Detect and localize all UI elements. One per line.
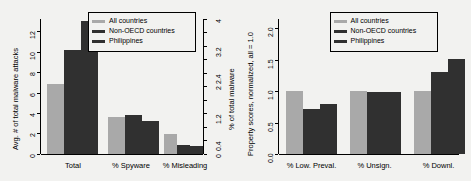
y2tick-2.0 <box>204 86 207 87</box>
xlabel-right-lowpreval: % Low. Preval. <box>274 162 350 170</box>
y2tick-label-2.4: 2.4 <box>215 74 222 84</box>
ytick-label-right-1.0: 1.0 <box>267 90 274 100</box>
bar-right-unsign-nonoecd <box>367 92 384 154</box>
y2tick-1.6 <box>204 100 207 101</box>
legend-swatch-all-countries <box>334 20 347 23</box>
legend-item-all-countries: All countries <box>334 16 433 26</box>
y2tick-4.0 <box>204 19 207 20</box>
y2tick-label-1.2: 1.2 <box>215 114 222 124</box>
y2tick-label-3.2: 3.2 <box>215 47 222 57</box>
ytick-label-12: 12 <box>29 31 36 39</box>
y2tick-label-2: 2 <box>215 86 222 90</box>
legend-right-chart: All countries Non-OECD countries Philipp… <box>330 12 438 52</box>
left-chart-xaxis-line <box>41 154 203 155</box>
legend-label-philippines: Philippines <box>351 37 385 45</box>
ytick-right-0.0 <box>275 154 278 155</box>
y2tick-3.2 <box>204 46 207 47</box>
y2tick-0.8 <box>204 127 207 128</box>
bar-right-lowpreval-philippines <box>320 104 337 154</box>
ytick-2 <box>37 133 40 134</box>
legend-left-chart: All countries Non-OECD countries Philipp… <box>88 12 196 52</box>
ytick-label-10: 10 <box>29 52 36 60</box>
bar-right-unsign-all <box>350 91 367 154</box>
ytick-12 <box>37 31 40 32</box>
xlabel-left-misleading: % Misleading <box>154 162 216 170</box>
y2tick-2.4 <box>204 73 207 74</box>
bar-left-total-all <box>47 84 64 154</box>
legend-item-non-oecd: Non-OECD countries <box>92 26 191 36</box>
legend-swatch-non-oecd <box>334 30 347 33</box>
ytick-10 <box>37 52 40 53</box>
right-chart-ylabel: Property scores, normalized, all = 1.0 <box>247 32 255 156</box>
legend-label-all-countries: All countries <box>351 17 389 25</box>
y2tick-0.0 <box>204 154 207 155</box>
xlabel-right-unsign: % Unsign. <box>346 162 404 170</box>
y2tick-label-4: 4 <box>215 19 222 23</box>
bar-left-spyware-philippines <box>142 121 159 154</box>
left-chart-ylabel: Avg. # of total malware attacks <box>12 48 20 150</box>
left-chart-yaxis-line <box>40 19 41 154</box>
bar-right-unsign-philippines <box>384 92 401 154</box>
ytick-label-4: 4 <box>29 113 36 117</box>
legend-item-philippines: Philippines <box>334 36 433 46</box>
y2tick-1.2 <box>204 113 207 114</box>
ytick-label-6: 6 <box>29 93 36 97</box>
ytick-4 <box>37 113 40 114</box>
y2tick-label-0: 0 <box>215 154 222 158</box>
ytick-right-1.5 <box>275 60 278 61</box>
legend-label-non-oecd: Non-OECD countries <box>351 27 417 35</box>
y2tick-0.4 <box>204 140 207 141</box>
bar-right-downl-all <box>414 91 431 154</box>
y2tick-label-0.4: 0.4 <box>215 141 222 151</box>
bar-left-spyware-nonoecd <box>125 115 142 155</box>
legend-item-philippines: Philippines <box>92 36 191 46</box>
y2tick-3.6 <box>204 32 207 33</box>
ytick-label-right-2.0: 2.0 <box>267 27 274 37</box>
legend-label-all-countries: All countries <box>109 17 147 25</box>
bar-right-lowpreval-all <box>286 91 303 154</box>
legend-label-philippines: Philippines <box>109 37 143 45</box>
legend-item-all-countries: All countries <box>92 16 191 26</box>
bar-left-misleading-all <box>164 134 177 154</box>
right-chart-yaxis-line <box>278 19 279 154</box>
ytick-right-1.0 <box>275 91 278 92</box>
xlabel-right-downl: % Downl. <box>412 162 466 170</box>
bar-right-lowpreval-nonoecd <box>303 109 320 154</box>
y2tick-2.8 <box>204 59 207 60</box>
xlabel-left-spyware: % Spyware <box>103 162 159 170</box>
bar-left-spyware-all <box>108 117 125 154</box>
ytick-label-right-1.5: 1.5 <box>267 59 274 69</box>
bar-right-downl-nonoecd <box>431 72 448 154</box>
bar-left-total-nonoecd <box>64 50 81 154</box>
ytick-right-2.0 <box>275 28 278 29</box>
legend-swatch-philippines <box>92 40 105 43</box>
ytick-right-0.5 <box>275 123 278 124</box>
ytick-0 <box>37 154 40 155</box>
ytick-8 <box>37 72 40 73</box>
ytick-label-right-0.0: 0.0 <box>267 153 274 163</box>
bar-left-misleading-philippines <box>190 146 203 154</box>
figure-container: Avg. # of total malware attacks % of tot… <box>0 0 471 181</box>
bar-left-misleading-nonoecd <box>177 145 190 155</box>
legend-swatch-non-oecd <box>92 30 105 33</box>
legend-swatch-all-countries <box>92 20 105 23</box>
right-chart-xaxis-line <box>279 154 459 155</box>
ytick-label-0: 0 <box>29 154 36 158</box>
bar-right-downl-philippines <box>448 59 465 154</box>
ytick-6 <box>37 93 40 94</box>
legend-label-non-oecd: Non-OECD countries <box>109 27 175 35</box>
ytick-label-right-0.5: 0.5 <box>267 122 274 132</box>
legend-swatch-philippines <box>334 40 347 43</box>
ytick-label-2: 2 <box>29 133 36 137</box>
chart-panel-right: Property scores, normalized, all = 1.0 0… <box>236 0 471 181</box>
xlabel-left-total: Total <box>48 162 98 170</box>
ytick-label-8: 8 <box>29 72 36 76</box>
legend-item-non-oecd: Non-OECD countries <box>334 26 433 36</box>
chart-panel-left: Avg. # of total malware attacks % of tot… <box>0 0 236 181</box>
